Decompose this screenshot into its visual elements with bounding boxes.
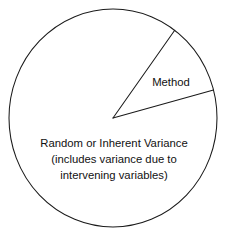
pie-chart-canvas: Method Random or Inherent Variance (incl… — [0, 0, 228, 245]
slice-label-variance-line3: intervening variables) — [60, 169, 168, 181]
slice-label-method: Method — [152, 76, 190, 88]
slice-label-variance-line2: (includes variance due to — [51, 153, 177, 165]
pie-chart-figure: Method Random or Inherent Variance (incl… — [0, 0, 228, 245]
slice-label-variance-line1: Random or Inherent Variance — [40, 137, 187, 149]
